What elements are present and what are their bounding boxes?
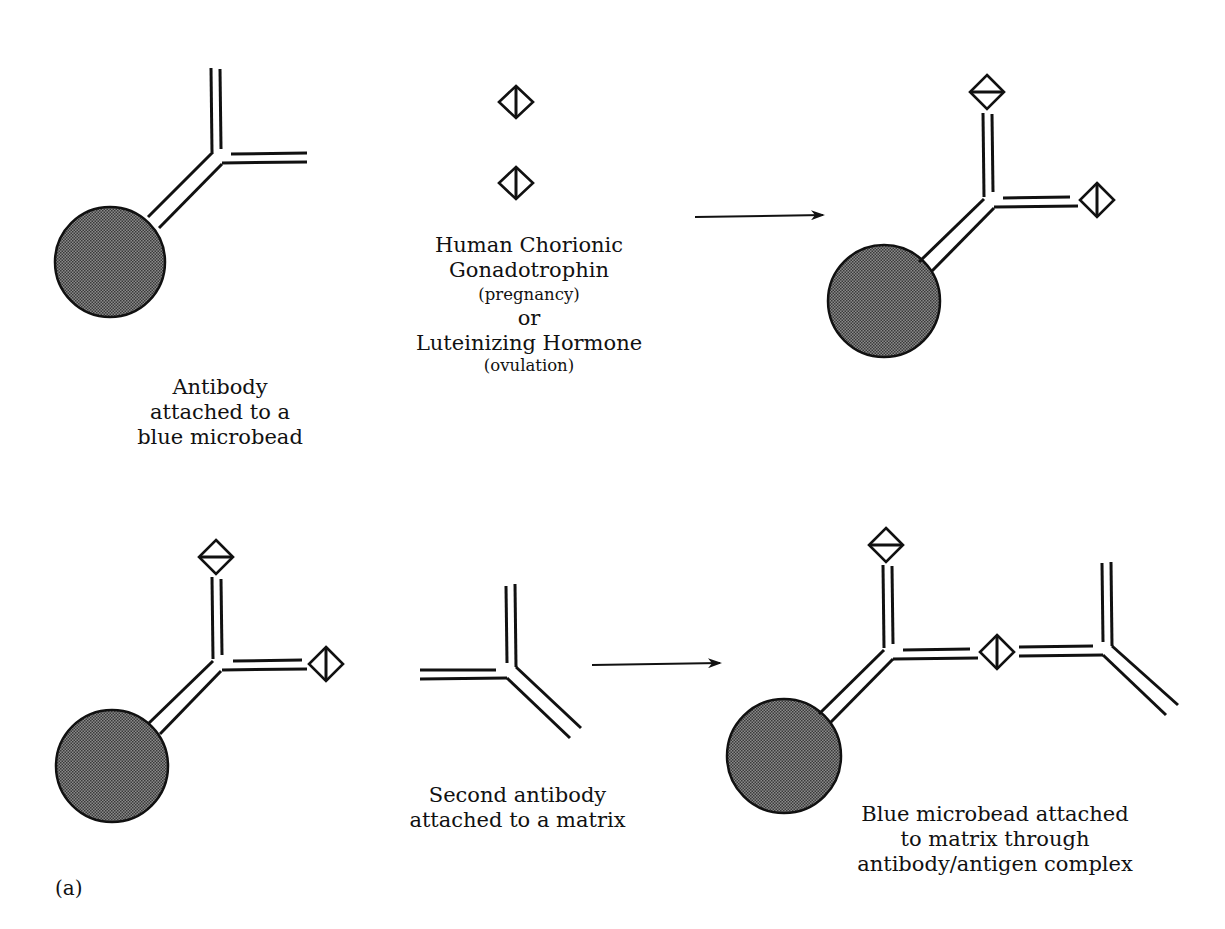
antigen-pair: [499, 86, 533, 199]
diamond-vertical-bar-icon: [499, 86, 533, 118]
immunoassay-diagram: Antibody attached to a blue microbead Hu…: [0, 0, 1225, 929]
caption-antibody-bead: Antibody attached to a blue microbead: [120, 375, 320, 449]
diamond-vertical-bar-icon: [499, 167, 533, 199]
diamond-horizontal-bar-icon: [199, 540, 233, 574]
antibody-on-bead-top-left: [55, 68, 307, 317]
diamond-horizontal-bar-icon: [869, 528, 903, 562]
microbead-icon: [828, 245, 940, 357]
microbead-icon: [727, 699, 841, 813]
bound-antibody-top-right: [828, 75, 1114, 357]
diamond-vertical-bar-icon: [1080, 183, 1114, 217]
matrix-antibody: [420, 584, 581, 738]
microbead-icon: [55, 207, 165, 317]
bound-antibody-bottom-left: [56, 540, 343, 822]
microbead-icon: [56, 710, 168, 822]
reaction-arrow-bottom: [592, 663, 720, 665]
diamond-vertical-bar-icon: [309, 647, 343, 681]
diamond-horizontal-bar-icon: [970, 75, 1004, 109]
reaction-arrow-top: [695, 215, 823, 217]
caption-complex: Blue microbead attached to matrix throug…: [835, 802, 1155, 876]
caption-second-antibody: Second antibody attached to a matrix: [395, 783, 640, 833]
diamond-vertical-bar-icon: [980, 635, 1014, 669]
caption-antigen: Human Chorionic Gonadotrophin (pregnancy…: [390, 233, 668, 375]
sandwich-complex: [727, 528, 1178, 813]
panel-label: (a): [55, 876, 83, 900]
